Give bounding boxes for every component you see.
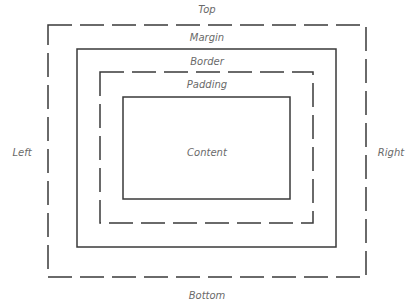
label-content: Content — [187, 147, 227, 158]
label-border: Border — [190, 56, 224, 67]
label-left: Left — [12, 147, 31, 158]
label-padding: Padding — [187, 79, 227, 90]
label-top: Top — [198, 4, 215, 15]
label-right: Right — [378, 147, 404, 158]
label-bottom: Bottom — [189, 290, 226, 301]
label-margin: Margin — [190, 32, 224, 43]
